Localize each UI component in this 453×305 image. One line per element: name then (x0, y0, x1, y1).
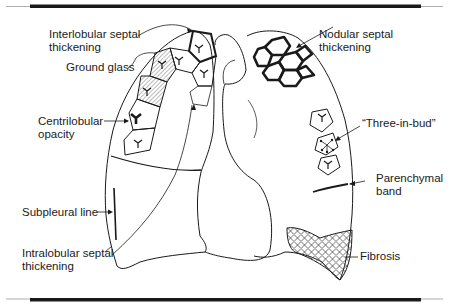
label-fibrosis: Fibrosis (360, 250, 400, 263)
top-rule (6, 5, 443, 9)
label-tree-in-bud: “Three-in-bud” (362, 117, 436, 130)
label-intralobular-septal-thickening: Intralobular septal thickening (22, 247, 113, 273)
leader-lines (97, 25, 365, 257)
label-interlobular-septal-thickening: Interlobular septal thickening (49, 28, 140, 54)
heart (205, 35, 272, 261)
label-subpleural-line: Subpleural line (22, 206, 98, 219)
arrowheads (108, 28, 355, 215)
label-nodular-septal-thickening: Nodular septal thickening (319, 28, 393, 54)
label-parenchymal-band: Parenchymal band (376, 172, 443, 198)
left-lung (247, 31, 353, 280)
label-centrilobular-opacity: Centrilobular opacity (38, 115, 103, 141)
bottom-rule (6, 298, 443, 302)
label-ground-glass: Ground glass (66, 61, 134, 74)
